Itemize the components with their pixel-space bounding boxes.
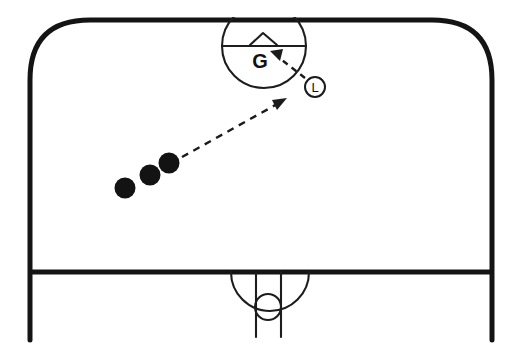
ball-marker-1: [115, 178, 136, 199]
pass-arrow-long-head: [272, 98, 287, 110]
shot-arrow-short-head: [270, 49, 283, 61]
court-diagram-svg: G L: [0, 0, 520, 352]
left-wing-label: L: [311, 80, 318, 95]
top-circle-clip-mask: [210, 0, 320, 17]
pass-arrow-long-line: [182, 103, 279, 157]
top-goal-net-chevron: [250, 33, 277, 45]
bottom-goal-center-circle: [255, 294, 281, 320]
play-diagram-canvas: G L: [0, 0, 520, 352]
ball-marker-3: [159, 153, 180, 174]
ball-marker-2: [140, 165, 161, 186]
goalkeeper-label: G: [252, 50, 268, 72]
bottom-goal-arc: [231, 272, 309, 311]
